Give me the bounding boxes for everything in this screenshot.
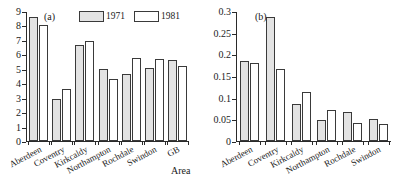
- x-tick-mark: [286, 142, 287, 145]
- x-tick-mark: [72, 142, 73, 145]
- bar: [240, 61, 249, 141]
- x-tick-mark: [49, 142, 50, 145]
- plot-area-a: 0123456789AberdeenCoventryKirkcaldyNorth…: [26, 12, 189, 142]
- bar: [62, 89, 71, 141]
- x-tick-mark: [165, 142, 166, 145]
- y-tick-mark: [22, 70, 26, 71]
- x-tick-mark: [28, 142, 29, 145]
- y-tick-label: 0.05: [214, 115, 232, 125]
- x-tick-mark: [142, 142, 143, 145]
- x-tick-mark: [337, 142, 338, 145]
- y-tick-mark: [22, 55, 26, 56]
- y-tick-label: 2: [16, 108, 21, 118]
- y-tick-label: 0: [226, 137, 231, 147]
- y-tick-mark: [232, 12, 236, 13]
- y-tick-mark: [232, 142, 236, 143]
- bar: [379, 124, 388, 141]
- y-tick-label: 0: [16, 137, 21, 147]
- bar: [276, 69, 285, 141]
- y-tick-label: 4: [16, 79, 21, 89]
- bar: [132, 58, 141, 141]
- bar: [29, 17, 38, 141]
- x-tick-mark: [51, 142, 52, 145]
- bar: [75, 45, 84, 141]
- x-tick-mark: [188, 142, 189, 145]
- x-tick-mark: [98, 142, 99, 145]
- bar: [302, 92, 311, 141]
- y-tick-mark: [232, 34, 236, 35]
- y-tick-mark: [22, 142, 26, 143]
- bar-group-container-b: [237, 12, 391, 141]
- bar: [327, 110, 336, 141]
- x-tick-mark: [265, 142, 266, 145]
- x-tick-mark: [363, 142, 364, 145]
- y-tick-label: 0.25: [214, 29, 232, 39]
- x-tick-mark: [342, 142, 343, 145]
- bar: [343, 112, 352, 141]
- x-tick-mark: [239, 142, 240, 145]
- x-tick-mark: [316, 142, 317, 145]
- y-tick-label: 0.3: [219, 7, 232, 17]
- y-tick-mark: [22, 99, 26, 100]
- chart-panel-b: (b) 1971 1981 00.050.10.150.20.250.3Aber…: [199, 0, 399, 191]
- bar: [353, 123, 362, 141]
- y-tick-mark: [232, 55, 236, 56]
- y-tick-label: 9: [16, 7, 21, 17]
- bar: [369, 119, 378, 141]
- x-tick-mark: [368, 142, 369, 145]
- y-tick-label: 1: [16, 123, 21, 133]
- y-tick-mark: [22, 84, 26, 85]
- y-tick-label: 0.2: [219, 50, 232, 60]
- bar: [266, 17, 275, 141]
- plot-area-b: 00.050.10.150.20.250.3AberdeenCoventryKi…: [236, 12, 391, 142]
- bar: [109, 79, 118, 141]
- bar: [52, 99, 61, 141]
- y-tick-mark: [22, 12, 26, 13]
- y-tick-label: 5: [16, 65, 21, 75]
- y-tick-mark: [232, 99, 236, 100]
- x-tick-mark: [312, 142, 313, 145]
- y-tick-label: 8: [16, 21, 21, 31]
- x-axis-title: Area: [171, 166, 190, 176]
- y-tick-label: 3: [16, 94, 21, 104]
- bar: [99, 69, 108, 141]
- y-tick-mark: [22, 26, 26, 27]
- x-tick-mark: [121, 142, 122, 145]
- bar: [250, 63, 259, 141]
- bar: [178, 66, 187, 141]
- bar: [145, 68, 154, 141]
- x-tick-mark: [389, 142, 390, 145]
- y-tick-mark: [232, 77, 236, 78]
- x-tick-mark: [74, 142, 75, 145]
- y-tick-mark: [22, 41, 26, 42]
- y-tick-mark: [22, 113, 26, 114]
- x-tick-mark: [95, 142, 96, 145]
- chart-panel-a: (a) 1971 1981 0123456789AberdeenCoventry…: [0, 0, 199, 191]
- x-tick-mark: [144, 142, 145, 145]
- x-tick-mark: [119, 142, 120, 145]
- bar: [39, 25, 48, 141]
- figure-two-panel-bar-charts: (a) 1971 1981 0123456789AberdeenCoventry…: [0, 0, 399, 191]
- bar: [85, 41, 94, 141]
- y-tick-label: 0.1: [219, 94, 232, 104]
- bar-group-container-a: [27, 12, 189, 141]
- x-category-label: GB: [166, 145, 181, 159]
- y-tick-mark: [232, 120, 236, 121]
- bar: [317, 120, 326, 141]
- x-tick-mark: [167, 142, 168, 145]
- x-tick-mark: [260, 142, 261, 145]
- bar: [122, 74, 131, 141]
- y-tick-label: 7: [16, 36, 21, 46]
- y-tick-label: 6: [16, 50, 21, 60]
- y-tick-label: 0.15: [214, 72, 232, 82]
- x-tick-mark: [291, 142, 292, 145]
- bar: [292, 104, 301, 141]
- y-tick-mark: [22, 128, 26, 129]
- bar: [155, 59, 164, 141]
- bar: [168, 60, 177, 141]
